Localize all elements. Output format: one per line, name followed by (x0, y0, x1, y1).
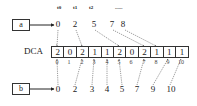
time-label-ellipsis: ...... (115, 5, 123, 10)
array-cell: 0 (126, 47, 138, 57)
b-value: 3 (90, 84, 95, 94)
array-index: 5 (118, 59, 121, 65)
a-value: 7 (110, 19, 115, 29)
time-label-t2: t2 (89, 5, 93, 10)
array-index: 1 (68, 59, 71, 65)
array-cell: 0 (64, 47, 76, 57)
array-index: 0 (56, 59, 59, 65)
b-value: 7 (135, 84, 140, 94)
pointer-a-box: a (12, 19, 30, 31)
array-index: 2 (81, 59, 84, 65)
array-index: 6 (130, 59, 133, 65)
dca-array: 2 0 2 1 1 2 0 2 1 1 1 (51, 46, 189, 58)
array-cell: 2 (52, 47, 64, 57)
array-cell: 1 (102, 47, 114, 57)
a-value: 2 (73, 19, 78, 29)
array-index: 8 (155, 59, 158, 65)
array-cell: 1 (164, 47, 176, 57)
array-cell: 2 (77, 47, 89, 57)
array-index: 7 (143, 59, 146, 65)
array-cell: 1 (176, 47, 188, 57)
b-value: 0 (56, 84, 61, 94)
array-cell: 1 (89, 47, 101, 57)
a-value: 5 (92, 19, 97, 29)
b-value: 5 (120, 84, 125, 94)
array-index: 4 (106, 59, 109, 65)
array-index: 3 (93, 59, 96, 65)
b-value: 4 (105, 84, 110, 94)
array-index: 10 (178, 59, 184, 65)
time-label-t0: t0 (57, 5, 61, 10)
a-value: 8 (121, 19, 126, 29)
b-value: 10 (167, 84, 176, 94)
array-label: DCA (24, 46, 43, 56)
array-cell: 1 (151, 47, 163, 57)
array-index: 9 (167, 59, 170, 65)
b-value: 9 (151, 84, 156, 94)
array-cell: 2 (139, 47, 151, 57)
array-cell: 2 (114, 47, 126, 57)
time-label-t1: t1 (73, 5, 77, 10)
a-value: 0 (56, 19, 61, 29)
pointer-b-box: b (12, 83, 30, 95)
b-value: 2 (73, 84, 78, 94)
